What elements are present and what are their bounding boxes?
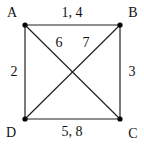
vertex-label-b: B <box>128 6 137 20</box>
vertex-d-dot <box>22 116 27 121</box>
edge-label-b-c: 3 <box>129 65 136 79</box>
vertex-c-dot <box>117 116 122 121</box>
vertex-label-a: A <box>7 6 17 20</box>
vertex-b-dot <box>117 22 122 27</box>
vertex-label-d: D <box>6 126 16 140</box>
vertex-a-dot <box>22 22 27 27</box>
edge-label-a-c: 6 <box>56 36 63 50</box>
graph-canvas <box>0 0 144 144</box>
edge-label-a-d: 2 <box>11 65 18 79</box>
edge-label-d-c: 5, 8 <box>62 125 83 139</box>
edge-label-d-b: 7 <box>83 36 90 50</box>
edge-label-a-b: 1, 4 <box>62 6 83 20</box>
vertex-label-c: C <box>128 127 137 141</box>
